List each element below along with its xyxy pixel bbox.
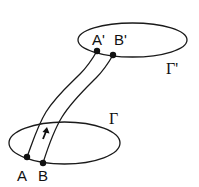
label-B-prime: B' bbox=[114, 31, 127, 48]
point-B bbox=[40, 160, 46, 166]
point-A bbox=[24, 154, 30, 160]
point-A-prime bbox=[94, 48, 100, 54]
diagram-canvas: A B A' B' Γ Γ' bbox=[0, 0, 199, 187]
label-B: B bbox=[38, 167, 48, 184]
strip-edge-left bbox=[27, 51, 97, 157]
orientation-arrow-icon bbox=[43, 127, 50, 139]
label-A-prime: A' bbox=[92, 31, 105, 48]
strip-edge-right bbox=[43, 55, 113, 163]
diagram-svg: A B A' B' Γ Γ' bbox=[0, 0, 199, 187]
label-gamma-prime: Γ' bbox=[166, 60, 178, 77]
point-B-prime bbox=[110, 52, 116, 58]
label-A: A bbox=[17, 167, 27, 184]
label-gamma: Γ bbox=[109, 110, 118, 127]
